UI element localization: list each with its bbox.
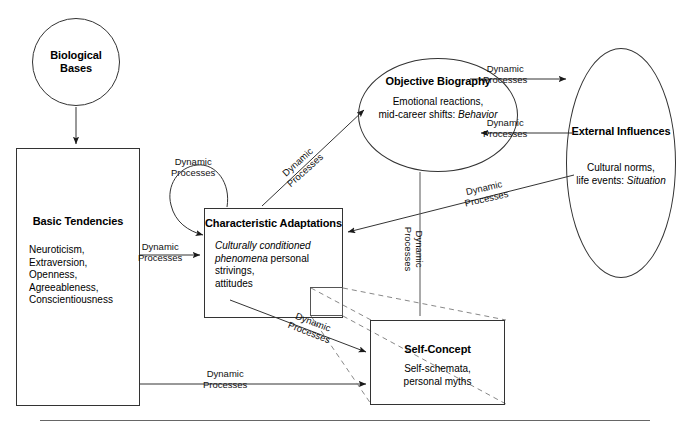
edge-label-loop: Dynamic Processes <box>171 156 215 178</box>
edge-external-to-charadapt <box>348 175 574 232</box>
node-subtitle: Cultural norms, life events: Situation <box>576 162 666 187</box>
node-self-concept[interactable]: Self-Concept Self-schemata, personal myt… <box>370 320 505 405</box>
edge-label-external-to-objbio: Dynamic Processes <box>483 117 527 139</box>
edge-label-basic-to-charadapt: Dynamic Processes <box>138 241 182 263</box>
node-external-influences[interactable]: External Influences Cultural norms, life… <box>566 48 676 278</box>
edge-label-objbio-to-external: Dynamic Processes <box>483 63 527 85</box>
node-basic-tendencies[interactable]: Basic Tendencies Neuroticism, Extraversi… <box>16 148 140 406</box>
node-title: Biological Bases <box>33 49 119 75</box>
dashed-projection-top <box>343 288 506 320</box>
node-subtitle: Culturally conditioned phenomena persona… <box>205 240 342 290</box>
node-biological-bases[interactable]: Biological Bases <box>32 18 120 106</box>
edge-label-objbio-to-selfcon: Dynamic Processes <box>403 227 425 271</box>
node-title: Self-Concept <box>404 343 471 356</box>
node-title: Basic Tendencies <box>33 215 124 228</box>
projection-corner-rect <box>310 287 343 316</box>
node-subtitle: Self-schemata, personal myths <box>404 363 472 388</box>
bottom-divider <box>40 420 650 421</box>
node-title: External Influences <box>572 125 671 138</box>
node-subtitle: Emotional reactions, mid-career shifts: … <box>379 96 498 121</box>
node-title: Objective Biography <box>385 75 490 88</box>
node-title: Characteristic Adaptations <box>205 217 342 230</box>
diagram-canvas: Biological Bases Basic Tendencies Neurot… <box>0 0 689 431</box>
edge-label-basic-to-selfcon: Dynamic Processes <box>203 368 247 390</box>
node-subtitle: Neuroticism, Extraversion, Openness, Agr… <box>17 244 113 307</box>
